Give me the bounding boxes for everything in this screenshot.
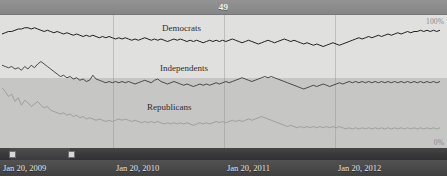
date-label-2010: Jan 20, 2010 (116, 160, 159, 176)
series-label-democrats: Democrats (162, 23, 201, 33)
top-value-bar[interactable]: 49 (0, 0, 447, 15)
date-label-2012: Jan 20, 2012 (338, 160, 381, 176)
date-label-2011: Jan 20, 2011 (227, 160, 270, 176)
scrubber-handle-left[interactable] (9, 151, 16, 158)
scrubber-handle-right[interactable] (68, 151, 75, 158)
republicans-line (2, 88, 440, 129)
party-affiliation-chart-widget: 49 100% 0% Democrats Independents Republ… (0, 0, 447, 176)
series-label-independents: Independents (160, 63, 208, 73)
top-value-label: 49 (0, 0, 447, 15)
range-scrubber[interactable] (0, 148, 447, 160)
y-axis-min-label: 0% (434, 138, 444, 147)
y-axis-max-label: 100% (426, 17, 444, 26)
scrubber-selected-range[interactable] (10, 148, 70, 160)
series-lines (0, 15, 447, 148)
independents-line (2, 62, 440, 90)
plot-area[interactable]: 100% 0% Democrats Independents Republica… (0, 15, 447, 148)
series-label-republicans: Republicans (147, 102, 192, 112)
democrats-line (2, 28, 440, 47)
date-label-2009: Jan 20, 2009 (3, 160, 46, 176)
